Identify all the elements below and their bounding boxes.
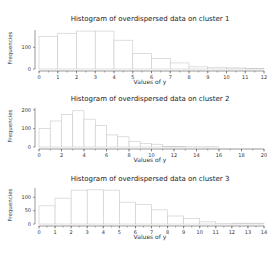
histogram-3: 05010001234567891011121314 [21, 188, 267, 235]
x-tick-label: 1 [53, 229, 56, 235]
histogram-bar [87, 190, 103, 224]
y-tick-label: 0 [28, 221, 31, 227]
x-tick-label: 12 [229, 229, 235, 235]
histogram-bar [50, 121, 61, 147]
x-tick-label: 0 [37, 229, 40, 235]
x-tick-label: 10 [197, 229, 203, 235]
histogram-bar [152, 144, 163, 147]
x-tick-label: 8 [166, 229, 169, 235]
x-tick-label: 3 [94, 74, 97, 80]
x-tick-label: 6 [150, 74, 153, 80]
x-tick-label: 2 [75, 74, 78, 80]
histogram-plots: 0100012345678910111201002000246810121416… [0, 0, 280, 259]
y-tick-label: 0 [28, 144, 31, 150]
histogram-bar [114, 40, 133, 69]
histogram-bar [227, 68, 246, 69]
y-tick-label: 0 [28, 66, 31, 72]
x-tick-label: 3 [86, 229, 89, 235]
x-tick-label: 1 [56, 74, 59, 80]
histogram-bar [140, 143, 151, 147]
histogram-bar [189, 67, 208, 69]
histogram-bar [135, 204, 151, 224]
histogram-bar [152, 210, 168, 224]
histogram-bar [152, 59, 171, 69]
histogram-bar [84, 119, 95, 147]
x-tick-label: 5 [131, 74, 134, 80]
x-tick-label: 4 [102, 229, 105, 235]
histogram-bar [133, 54, 152, 69]
x-tick-label: 8 [127, 152, 130, 158]
y-tick-label: 50 [25, 207, 31, 213]
histogram-bar [107, 135, 118, 147]
histogram-bar [39, 37, 58, 70]
histogram-bar [208, 67, 227, 69]
x-tick-label: 11 [242, 74, 248, 80]
x-tick-label: 2 [60, 152, 63, 158]
histogram-bar [73, 111, 84, 147]
y-tick-label: 100 [21, 44, 31, 50]
x-tick-label: 12 [261, 74, 267, 80]
x-tick-label: 14 [193, 152, 199, 158]
histogram-bar [95, 126, 106, 147]
x-tick-label: 0 [37, 152, 40, 158]
x-tick-label: 13 [245, 229, 251, 235]
histogram-bar [170, 63, 189, 69]
histogram-bar [58, 33, 77, 69]
histogram-bar [71, 190, 87, 224]
histogram-bar [232, 223, 248, 224]
histogram-bar [77, 31, 96, 69]
x-tick-label: 7 [150, 229, 153, 235]
y-tick-label: 200 [21, 107, 31, 113]
histogram-bar [168, 216, 184, 224]
histogram-1: 01000123456789101112 [21, 30, 267, 80]
x-tick-label: 10 [223, 74, 229, 80]
histogram-bar [55, 198, 71, 224]
x-tick-label: 14 [261, 229, 267, 235]
histogram-bar [200, 222, 216, 224]
x-tick-label: 5 [118, 229, 121, 235]
x-tick-label: 7 [169, 74, 172, 80]
x-tick-label: 16 [216, 152, 222, 158]
histogram-bar [184, 219, 200, 224]
x-tick-label: 9 [206, 74, 209, 80]
histogram-bar [119, 202, 135, 224]
y-tick-label: 100 [21, 194, 31, 200]
x-tick-label: 0 [37, 74, 40, 80]
histogram-bar [62, 115, 73, 148]
x-tick-label: 9 [182, 229, 185, 235]
histogram-bar [118, 137, 129, 147]
histogram-bar [39, 128, 50, 147]
histogram-bar [95, 31, 114, 69]
x-tick-label: 6 [105, 152, 108, 158]
histogram-bar [163, 146, 174, 147]
x-tick-label: 12 [171, 152, 177, 158]
x-tick-label: 4 [82, 152, 85, 158]
x-tick-label: 11 [213, 229, 219, 235]
histogram-bar [248, 223, 264, 224]
histogram-bar [245, 68, 264, 69]
histogram-bar [129, 141, 140, 147]
x-tick-label: 18 [238, 152, 244, 158]
x-tick-label: 4 [112, 74, 115, 80]
x-tick-label: 2 [70, 229, 73, 235]
histogram-bar [103, 190, 119, 224]
histogram-2: 010020002468101214161820 [21, 107, 267, 158]
x-tick-label: 10 [148, 152, 154, 158]
y-tick-label: 100 [21, 125, 31, 131]
x-tick-label: 20 [261, 152, 267, 158]
x-tick-label: 8 [187, 74, 190, 80]
histogram-bar [39, 206, 55, 224]
x-tick-label: 6 [134, 229, 137, 235]
